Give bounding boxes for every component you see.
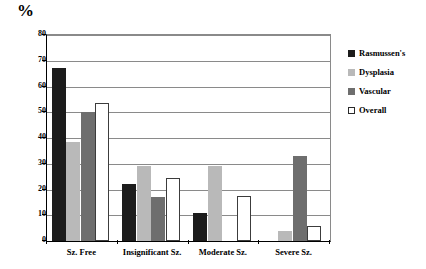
y-axis-tick: 30 <box>0 159 46 167</box>
y-axis-tick-label: 40 <box>20 133 46 141</box>
x-axis-tick-mark <box>46 240 47 244</box>
bar-vascular <box>81 112 95 241</box>
y-axis-tick-label: 20 <box>20 185 46 193</box>
bar-dysplasia <box>278 231 292 241</box>
plot-area <box>46 34 331 242</box>
y-axis-tick-label: 10 <box>20 210 46 218</box>
bar-chart: % 80706050403020100 Sz. FreeInsignifican… <box>0 0 426 269</box>
legend-item-label: Overall <box>359 106 386 115</box>
legend-item: Overall <box>348 101 426 120</box>
legend-item: Dysplasia <box>348 63 426 82</box>
y-axis-tick-label: 30 <box>20 159 46 167</box>
y-axis-tick: 20 <box>0 185 46 193</box>
y-axis-tick: 60 <box>0 82 46 90</box>
bar-rasmussen-s <box>193 213 207 241</box>
bar-rasmussen-s <box>52 68 66 241</box>
legend-item-label: Dysplasia <box>359 68 394 77</box>
y-axis-tick-label: 50 <box>20 107 46 115</box>
x-axis-tick-mark <box>117 240 118 244</box>
legend-item-label: Vascular <box>359 87 391 96</box>
bar-overall <box>166 178 180 241</box>
legend-swatch-dark-gray-icon <box>348 88 355 95</box>
x-axis-category-label: Insignificant Sz. <box>117 247 188 257</box>
y-axis-tick-label: 80 <box>20 30 46 38</box>
x-axis-tick-mark <box>258 240 259 244</box>
bar-dysplasia <box>137 166 151 241</box>
legend-swatch-light-gray-icon <box>348 69 355 76</box>
legend-item: Rasmussen's <box>348 44 426 63</box>
x-axis-category-label: Sz. Free <box>46 247 117 257</box>
bar-vascular <box>151 197 165 241</box>
bar-group <box>118 35 189 241</box>
chart-legend: Rasmussen'sDysplasiaVascularOverall <box>348 44 426 120</box>
bar-group <box>47 35 118 241</box>
bar-group <box>259 35 330 241</box>
legend-swatch-black-icon <box>348 50 355 57</box>
y-axis-tick-label: 60 <box>20 82 46 90</box>
x-axis-category-label: Moderate Sz. <box>188 247 259 257</box>
legend-item: Vascular <box>348 82 426 101</box>
legend-item-label: Rasmussen's <box>359 49 405 58</box>
y-axis-tick: 10 <box>0 210 46 218</box>
y-axis-tick-label: 0 <box>20 236 46 244</box>
y-axis-tick: 40 <box>0 133 46 141</box>
bar-overall <box>307 226 321 241</box>
y-axis-unit-label: % <box>17 2 34 20</box>
legend-swatch-white-icon <box>348 107 355 114</box>
x-axis-category-label: Severe Sz. <box>258 247 329 257</box>
bar-dysplasia <box>208 166 222 241</box>
y-axis-tick: 50 <box>0 107 46 115</box>
bar-overall <box>95 103 109 241</box>
y-axis-tick-label: 70 <box>20 56 46 64</box>
bar-rasmussen-s <box>122 184 136 241</box>
y-axis-tick: 80 <box>0 30 46 38</box>
y-axis-tick: 70 <box>0 56 46 64</box>
bar-overall <box>237 196 251 241</box>
bar-dysplasia <box>66 142 80 241</box>
bar-vascular <box>293 156 307 241</box>
y-axis-tick: 0 <box>0 236 46 244</box>
bar-group <box>189 35 260 241</box>
x-axis-tick-mark <box>329 240 330 244</box>
x-axis-tick-mark <box>188 240 189 244</box>
